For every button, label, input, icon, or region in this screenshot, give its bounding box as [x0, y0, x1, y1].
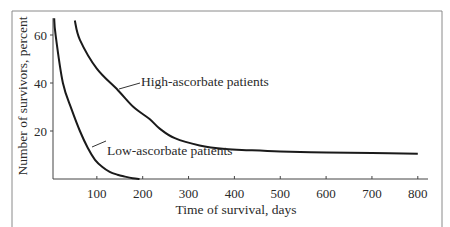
x-tick-label: 500: [271, 186, 291, 201]
y-tick-label: 20: [34, 124, 47, 139]
x-axis-title: Time of survival, days: [176, 202, 297, 217]
y-tick-label: 60: [34, 28, 47, 43]
x-tick-label: 100: [87, 186, 107, 201]
x-tick-label: 700: [362, 186, 382, 201]
y-ticks: 204060: [34, 28, 53, 139]
x-tick-label: 800: [408, 186, 428, 201]
y-axis-title: Number of survivors, percent: [15, 16, 30, 175]
annotation-high-ascorbate: High-ascorbate patients: [141, 74, 269, 89]
x-tick-label: 300: [179, 186, 199, 201]
x-tick-label: 200: [133, 186, 153, 201]
chart: 100200300400500600700800 204060 Time of …: [0, 0, 450, 227]
x-tick-label: 600: [316, 186, 336, 201]
annotation-leader-high: [119, 83, 140, 89]
y-tick-label: 40: [34, 76, 47, 91]
x-tick-label: 400: [225, 186, 245, 201]
annotation-low-ascorbate: Low-ascorbate patients: [107, 143, 233, 158]
annotation-leader-low: [92, 141, 106, 147]
